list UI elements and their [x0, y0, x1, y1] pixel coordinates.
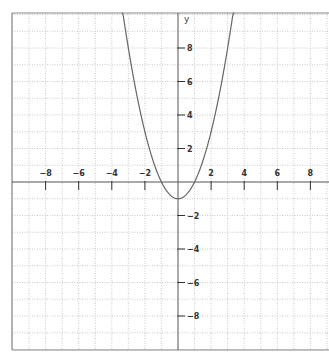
y-tick-label: 4	[187, 111, 193, 120]
x-tick-label: −4	[106, 169, 119, 178]
y-tick-label: 6	[187, 78, 193, 87]
function-plot: −8−6−4−224688642−2−4−6−8 y	[0, 0, 329, 360]
x-tick-label: 6	[275, 169, 281, 178]
y-tick-label: −6	[187, 279, 200, 288]
y-tick-label: −2	[187, 212, 199, 221]
x-tick-label: 2	[208, 169, 214, 178]
y-tick-label: 8	[187, 44, 193, 53]
x-tick-label: −6	[73, 169, 86, 178]
y-tick-label: −8	[187, 312, 200, 321]
y-tick-label: −4	[187, 245, 200, 254]
x-tick-label: −8	[39, 169, 52, 178]
y-tick-label: 2	[187, 145, 193, 154]
x-tick-label: 4	[241, 169, 247, 178]
x-tick-label: 8	[308, 169, 314, 178]
x-tick-label: −2	[139, 169, 151, 178]
y-axis-label: y	[184, 14, 190, 24]
